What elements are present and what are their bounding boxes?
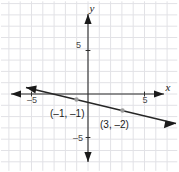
y-axis-tick-positive-five: 5 [76, 40, 81, 50]
point-label-3-minus2: (3, –2) [100, 119, 129, 130]
x-axis-tick-positive-five: 5 [142, 95, 147, 105]
coordinate-plane-svg: x y –5 5 5 –5 (–1, –1) (3, –2) [0, 0, 179, 172]
x-axis-tick-negative-five: –5 [27, 95, 37, 105]
data-point-marker-1 [74, 97, 78, 101]
x-axis-label: x [165, 81, 171, 93]
coordinate-plane-figure: x y –5 5 5 –5 (–1, –1) (3, –2) [0, 0, 179, 172]
y-axis-tick-negative-five: –5 [73, 133, 83, 143]
data-point-marker-2 [120, 108, 124, 112]
y-axis-label: y [89, 2, 95, 14]
point-label-minus1-minus1: (–1, –1) [50, 108, 84, 119]
